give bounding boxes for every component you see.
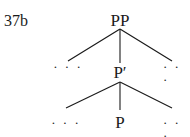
branch-pp-right (120, 29, 172, 61)
tree-branches (0, 0, 190, 137)
node-pp: PP (111, 12, 130, 29)
node-pbar-right-ellipsis: · · · (163, 116, 181, 137)
branch-pp-left (68, 29, 120, 61)
node-pp-left-ellipsis: · · · (53, 60, 83, 73)
syntax-tree-figure: 37b PP · · · P′ · · · · · · P · · · (0, 0, 190, 137)
node-pp-right-ellipsis: · · · (163, 60, 181, 86)
node-p-bar: P′ (113, 64, 126, 81)
node-p: P (115, 114, 124, 131)
branch-pbar-left (66, 82, 120, 108)
node-pbar-left-ellipsis: · · · (51, 116, 81, 129)
